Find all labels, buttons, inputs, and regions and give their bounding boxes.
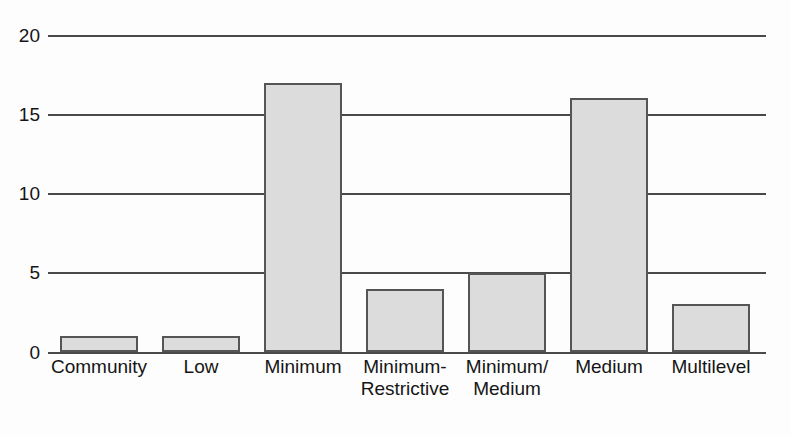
bar-minimum — [264, 83, 342, 352]
bar-chart: 20 15 10 5 0 Community Low Minimum — [0, 0, 791, 435]
y-tick-15: 15 — [0, 105, 40, 124]
x-label-multilevel: Multilevel — [646, 356, 776, 378]
bar-multilevel — [672, 304, 750, 352]
bars-layer — [48, 35, 766, 352]
y-tick-10: 10 — [0, 184, 40, 203]
bar-low — [162, 336, 240, 352]
y-tick-5: 5 — [0, 263, 40, 282]
axis-baseline — [48, 352, 766, 354]
bar-medium — [570, 98, 648, 352]
x-axis-labels: Community Low Minimum Minimum- Restricti… — [48, 356, 766, 426]
y-tick-20: 20 — [0, 26, 40, 45]
bar-community — [60, 336, 138, 352]
bar-minimum-medium — [468, 273, 546, 352]
bar-minimum-restrictive — [366, 289, 444, 352]
